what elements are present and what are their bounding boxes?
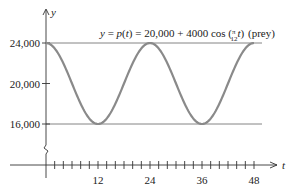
plot-area: y 16,00020,00024,000 t 12243648 y = p(t)…: [0, 0, 295, 193]
x-axis-label: t: [282, 159, 286, 171]
chart: y 16,00020,00024,000 t 12243648 y = p(t)…: [0, 0, 295, 193]
series-label: (prey): [248, 27, 275, 40]
y-tick-label: 24,000: [10, 37, 41, 49]
equation-label: y = p(t) = 20,000 + 4000 cos (π12t): [99, 27, 245, 43]
y-ticks: 16,00020,00024,000: [10, 37, 50, 130]
x-tick-label: 48: [249, 174, 261, 186]
x-tick-label: 12: [93, 174, 104, 186]
y-tick-label: 20,000: [10, 78, 41, 90]
x-tick-label: 36: [197, 174, 209, 186]
x-tick-label: 24: [145, 174, 157, 186]
y-axis: [43, 9, 49, 178]
prey-curve: [46, 43, 254, 124]
y-tick-label: 16,000: [10, 118, 41, 130]
y-axis-label: y: [50, 6, 56, 18]
